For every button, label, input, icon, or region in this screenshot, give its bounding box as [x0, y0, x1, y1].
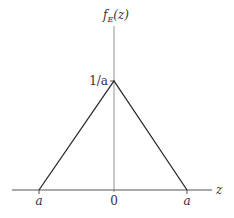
- x-axis-label: z: [215, 183, 223, 197]
- triangle-curve: [39, 81, 187, 190]
- triangular-pdf-diagram: fE(z) 1/a z a 0 a: [0, 0, 234, 218]
- y-axis-label: fE(z): [102, 8, 129, 24]
- peak-label: 1/a: [89, 74, 108, 88]
- y-axis-arg: (z): [113, 8, 129, 22]
- tick-label-right-a: a: [183, 194, 190, 208]
- tick-label-left-a: a: [35, 194, 42, 208]
- tick-label-zero: 0: [110, 194, 118, 208]
